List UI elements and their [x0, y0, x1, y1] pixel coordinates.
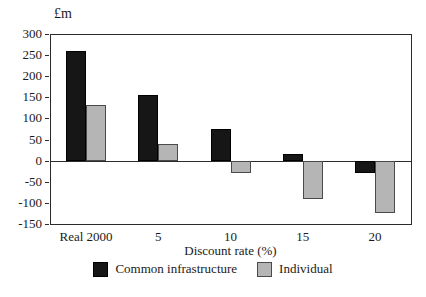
- bar-common-infrastructure-real-2000: [66, 51, 86, 161]
- y-tick-label: 0: [0, 154, 42, 168]
- plot-bottom-border: [50, 224, 411, 225]
- plot-right-border: [411, 34, 412, 225]
- x-category-label-10: 10: [194, 229, 266, 245]
- y-axis-unit-label: £m: [54, 6, 72, 22]
- bar-common-infrastructure-15: [283, 154, 303, 160]
- y-tick-label: 250: [0, 48, 42, 62]
- y-tick-mark: [45, 55, 49, 56]
- bar-individual-real-2000: [86, 105, 106, 161]
- y-tick-label: 50: [0, 133, 42, 147]
- bar-individual-15: [303, 161, 323, 199]
- y-tick-mark: [45, 161, 49, 162]
- bar-individual-5: [158, 144, 178, 161]
- y-tick-mark: [45, 97, 49, 98]
- bar-common-infrastructure-10: [211, 129, 231, 161]
- bar-common-infrastructure-20: [355, 161, 375, 174]
- y-tick-label: 150: [0, 90, 42, 104]
- y-tick-mark: [45, 76, 49, 77]
- x-category-label-5: 5: [122, 229, 194, 245]
- legend-label-common-infrastructure: Common infrastructure: [115, 261, 237, 277]
- bar-common-infrastructure-5: [138, 95, 158, 160]
- y-tick-mark: [45, 118, 49, 119]
- x-category-label-15: 15: [267, 229, 339, 245]
- legend-swatch-common-infrastructure: [93, 262, 108, 277]
- bar-individual-20: [375, 161, 395, 214]
- bar-chart-figure: £m Discount rate (%) Common infrastructu…: [0, 0, 426, 297]
- y-tick-label: -150: [0, 217, 42, 231]
- y-tick-mark: [45, 140, 49, 141]
- y-tick-label: 100: [0, 111, 42, 125]
- x-axis-title: Discount rate (%): [50, 243, 411, 259]
- legend-item-common-infrastructure: Common infrastructure: [93, 261, 237, 277]
- y-tick-mark: [45, 34, 49, 35]
- plot-top-border: [50, 34, 411, 35]
- legend: Common infrastructureIndividual: [0, 261, 426, 277]
- legend-item-individual: Individual: [257, 261, 332, 277]
- y-tick-mark: [45, 182, 49, 183]
- y-tick-label: 200: [0, 69, 42, 83]
- y-axis-line: [50, 34, 51, 225]
- x-category-label-real-2000: Real 2000: [50, 229, 122, 245]
- y-tick-label: 300: [0, 27, 42, 41]
- legend-swatch-individual: [257, 262, 272, 277]
- y-tick-mark: [45, 203, 49, 204]
- bar-individual-10: [231, 161, 251, 174]
- y-tick-mark: [45, 224, 49, 225]
- x-category-label-20: 20: [339, 229, 411, 245]
- y-tick-label: -100: [0, 196, 42, 210]
- legend-label-individual: Individual: [279, 261, 332, 277]
- y-tick-label: -50: [0, 175, 42, 189]
